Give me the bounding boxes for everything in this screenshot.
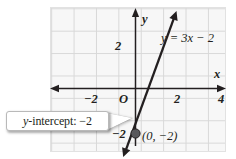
y-tick-label-2: 2: [114, 39, 121, 53]
y-intercept-callout: y-intercept: −2: [6, 111, 109, 131]
equation-label: y = 3x − 2: [159, 31, 214, 45]
x-axis-label: x: [213, 67, 220, 81]
coordinate-graph-figure: x y O −2 2 4 2 −2 y = 3x − 2 (0, −2) y-i…: [0, 0, 236, 159]
x-tick-label-4: 4: [217, 92, 224, 106]
callout-label: y-intercept: −2: [23, 114, 92, 129]
callout-tail: [107, 113, 132, 130]
origin-label: O: [119, 92, 128, 106]
x-axis: [50, 85, 226, 92]
x-tick-label-2: 2: [173, 92, 180, 106]
graph-plot-layer: x y O −2 2 4 2 −2 y = 3x − 2 (0, −2): [0, 0, 236, 159]
y-axis-label: y: [140, 12, 148, 26]
callout-text-rest: -intercept: −2: [28, 114, 92, 128]
point-coordinate-label: (0, −2): [142, 129, 178, 143]
x-tick-label-neg2: −2: [84, 92, 98, 106]
y-intercept-point-marker: [131, 129, 140, 138]
